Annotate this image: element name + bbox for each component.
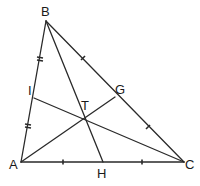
cevian-bh <box>46 21 103 162</box>
side-ab <box>21 21 46 162</box>
label-h: H <box>97 166 106 181</box>
label-i: I <box>28 83 32 98</box>
label-a: A <box>9 157 18 172</box>
tick-mark-bi <box>37 57 43 61</box>
label-c: C <box>185 157 194 172</box>
cevian-ag <box>21 97 115 162</box>
geometry-diagram: B A C G H I T <box>0 0 200 186</box>
label-b: B <box>41 4 50 19</box>
cevian-ci <box>34 98 184 162</box>
triangle-figure: B A C G H I T <box>0 0 200 186</box>
label-t: T <box>81 98 89 113</box>
label-g: G <box>115 82 125 97</box>
